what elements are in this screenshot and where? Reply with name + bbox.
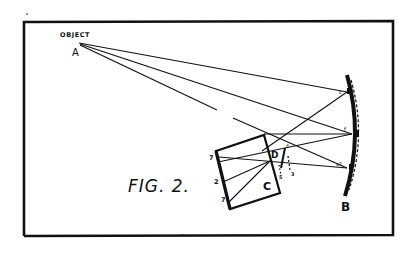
box-mark-2: 2	[214, 178, 219, 186]
mirror-mark-c	[347, 88, 351, 94]
lens-d-label: D	[271, 150, 278, 160]
optical-diagram: OBJECT A B C D c f c1 7 2 7 4 5 3 FIG. 2…	[0, 0, 413, 255]
object-label: OBJECT	[60, 31, 90, 39]
ray-box-inner-1	[223, 161, 270, 182]
frame-border	[24, 21, 393, 236]
reflected-rays	[218, 92, 352, 202]
lens-d	[279, 148, 290, 175]
point-a-label: A	[72, 47, 79, 58]
lens-mark-1: 4	[286, 143, 289, 148]
mirror-mark-f	[355, 130, 359, 137]
box-c-label: C	[263, 180, 271, 193]
ray-a-to-c1-part1	[80, 45, 217, 110]
mirror-mark-label-c: c	[339, 89, 342, 95]
box-mark-3: 7	[221, 196, 226, 204]
box-c	[216, 135, 280, 209]
lens-mark-2: 5	[279, 174, 283, 180]
speck	[26, 13, 28, 15]
mirror-mark-label-f: f	[344, 126, 347, 132]
figure-caption: FIG. 2.	[128, 176, 190, 196]
incident-rays	[79, 43, 352, 168]
mirror-b-label: B	[341, 200, 350, 214]
ray-c-to-box	[262, 92, 347, 151]
ray-a-to-f	[80, 44, 352, 134]
ray-a-to-c	[79, 43, 347, 92]
lens-mark-3: 3	[291, 171, 295, 177]
ray-a-to-c1-part2	[233, 118, 347, 168]
box-mark-1: 7	[209, 154, 214, 162]
mirror-mark-c1	[349, 164, 353, 170]
mirror-mark-label-c1: c1	[336, 161, 343, 167]
